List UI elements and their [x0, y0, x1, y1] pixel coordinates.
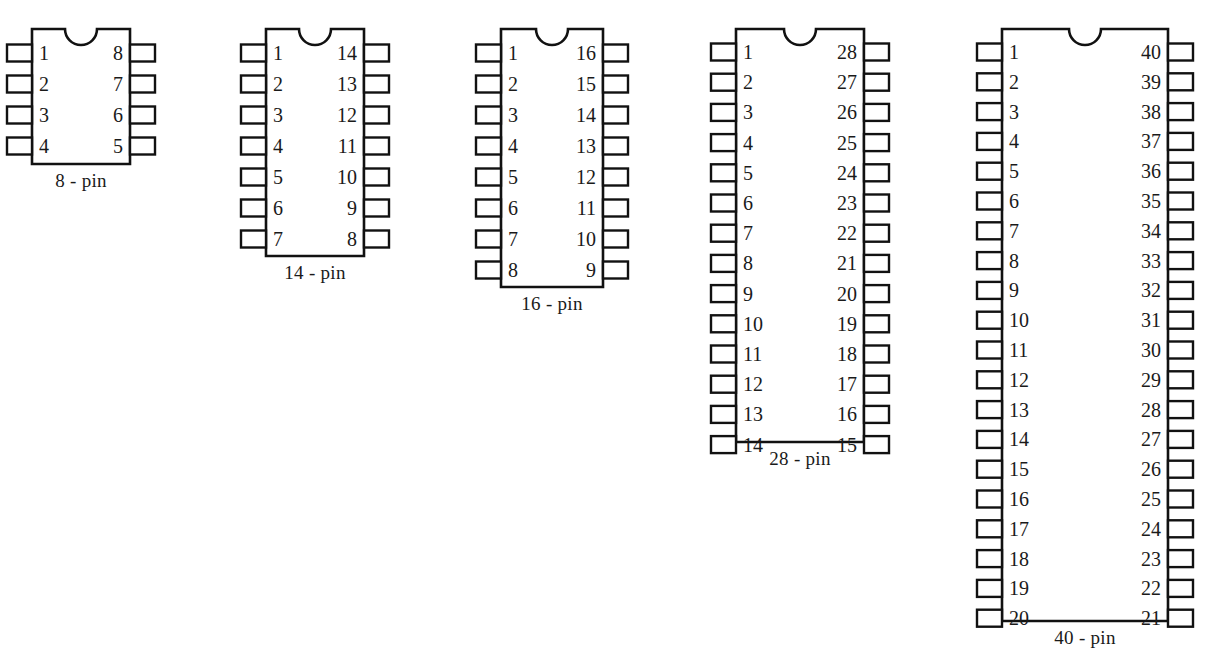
pin-lead-left-1 [476, 45, 501, 62]
pin-lead-left-6 [476, 200, 501, 217]
pin-number-1: 1 [273, 42, 283, 64]
pin-number-11: 11 [743, 343, 762, 365]
dip-package-8-pin: 18273645 [0, 23, 165, 170]
pin-lead-left-5 [241, 169, 266, 186]
pin-number-1: 1 [508, 42, 518, 64]
pin-number-20: 20 [1009, 607, 1029, 629]
pin-lead-left-3 [711, 104, 736, 121]
pin-number-34: 34 [1141, 220, 1161, 242]
dip-package-40-pin: 1402393384375366357348339321031113012291… [967, 23, 1203, 627]
pin-lead-right-38 [1168, 103, 1193, 120]
pin-lead-left-1 [977, 44, 1002, 61]
pin-lead-left-3 [977, 103, 1002, 120]
pin-lead-right-37 [1168, 133, 1193, 150]
pin-lead-left-4 [711, 134, 736, 151]
pin-number-6: 6 [113, 104, 123, 126]
pin-lead-right-21 [864, 255, 889, 272]
pin-lead-right-11 [603, 200, 628, 217]
pin-number-5: 5 [743, 162, 753, 184]
pin-lead-left-12 [711, 376, 736, 393]
pin-lead-right-10 [364, 169, 389, 186]
pin-number-11: 11 [338, 135, 357, 157]
pin-lead-left-18 [977, 550, 1002, 567]
pin-number-4: 4 [1009, 130, 1019, 152]
pin-number-39: 39 [1141, 71, 1161, 93]
pin-lead-right-26 [1168, 461, 1193, 478]
pin-lead-left-6 [711, 195, 736, 212]
pin-number-15: 15 [576, 73, 596, 95]
pin-number-1: 1 [39, 42, 49, 64]
pin-lead-left-5 [977, 163, 1002, 180]
pin-lead-left-2 [977, 73, 1002, 90]
package-label-40-pin: 40 - pin [1005, 627, 1165, 649]
pin-number-18: 18 [837, 343, 857, 365]
pin-lead-left-15 [977, 461, 1002, 478]
pin-number-14: 14 [337, 42, 357, 64]
pin-lead-left-9 [711, 285, 736, 302]
pin-number-16: 16 [1009, 488, 1029, 510]
pin-lead-left-3 [476, 107, 501, 124]
pin-lead-right-30 [1168, 342, 1193, 359]
pin-lead-right-6 [130, 107, 155, 124]
pin-lead-left-16 [977, 491, 1002, 508]
pin-number-1: 1 [1009, 41, 1019, 63]
pin-number-28: 28 [1141, 399, 1161, 421]
pin-number-40: 40 [1141, 41, 1161, 63]
pin-number-3: 3 [743, 101, 753, 123]
pin-number-10: 10 [337, 166, 357, 188]
pin-number-3: 3 [273, 104, 283, 126]
pin-number-21: 21 [1141, 607, 1161, 629]
package-label-14-pin: 14 - pin [235, 262, 395, 284]
pin-lead-right-34 [1168, 222, 1193, 239]
pin-number-10: 10 [1009, 309, 1029, 331]
package-label-16-pin: 16 - pin [472, 293, 632, 315]
pin-lead-right-15 [603, 76, 628, 93]
pin-lead-right-13 [364, 76, 389, 93]
pin-lead-right-23 [1168, 550, 1193, 567]
pin-lead-right-22 [1168, 580, 1193, 597]
pin-lead-left-13 [977, 401, 1002, 418]
pin-lead-left-7 [711, 225, 736, 242]
pin-lead-left-7 [977, 222, 1002, 239]
pin-number-3: 3 [39, 104, 49, 126]
pin-lead-left-7 [476, 231, 501, 248]
pin-lead-left-12 [977, 371, 1002, 388]
pin-number-7: 7 [113, 73, 123, 95]
pin-lead-right-17 [864, 376, 889, 393]
pin-lead-right-23 [864, 195, 889, 212]
pin-number-1: 1 [743, 41, 753, 63]
pin-number-10: 10 [576, 228, 596, 250]
pin-number-8: 8 [508, 259, 518, 281]
dip-package-16-pin: 11621531441351261171089 [466, 23, 638, 293]
pin-number-9: 9 [347, 197, 357, 219]
pin-number-27: 27 [837, 71, 857, 93]
pin-lead-left-5 [711, 164, 736, 181]
pin-number-14: 14 [576, 104, 596, 126]
pin-lead-left-4 [977, 133, 1002, 150]
pin-lead-left-8 [977, 252, 1002, 269]
pin-lead-right-24 [1168, 520, 1193, 537]
pin-number-9: 9 [743, 283, 753, 305]
pin-lead-right-32 [1168, 282, 1193, 299]
pin-lead-left-6 [241, 200, 266, 217]
pin-number-23: 23 [837, 192, 857, 214]
pin-lead-left-1 [241, 45, 266, 62]
pin-lead-right-28 [864, 44, 889, 61]
pin-lead-left-1 [7, 45, 32, 62]
pin-lead-right-18 [864, 346, 889, 363]
pin-lead-right-16 [864, 406, 889, 423]
pin-number-19: 19 [1009, 577, 1029, 599]
pin-lead-left-8 [711, 255, 736, 272]
pin-number-3: 3 [1009, 101, 1019, 123]
dip-package-14-pin: 1142133124115106978 [231, 23, 399, 262]
pin-lead-right-20 [864, 285, 889, 302]
pin-number-17: 17 [1009, 518, 1029, 540]
pin-lead-right-13 [603, 138, 628, 155]
pin-number-25: 25 [1141, 488, 1161, 510]
pin-lead-left-9 [977, 282, 1002, 299]
pin-lead-left-5 [476, 169, 501, 186]
pin-lead-left-19 [977, 580, 1002, 597]
pin-number-35: 35 [1141, 190, 1161, 212]
pin-number-4: 4 [743, 132, 753, 154]
pin-lead-right-11 [364, 138, 389, 155]
